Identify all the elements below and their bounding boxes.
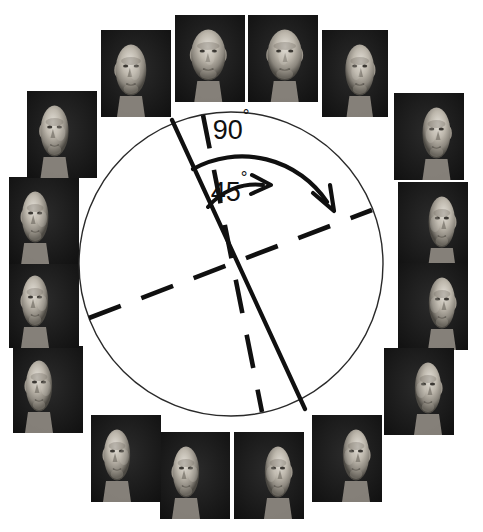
dashed-axis-45deg	[203, 115, 262, 412]
figure-root: 90° 45°	[0, 0, 483, 532]
label-45-degrees: 45°	[211, 168, 248, 208]
face-photo-10	[160, 432, 230, 519]
face-photo-03	[322, 30, 388, 117]
arc-45-degree	[208, 185, 263, 207]
label-45-degree-symbol: °	[241, 168, 248, 187]
face-photo-05	[398, 182, 468, 269]
face-photo-11	[91, 415, 161, 502]
face-photo-04	[394, 93, 464, 180]
label-90-degree-symbol: °	[243, 106, 250, 125]
face-photo-14	[9, 177, 79, 264]
dashed-axis-90deg	[89, 210, 372, 318]
arc-90-arrowhead	[313, 185, 334, 211]
arc-90-degree	[193, 156, 327, 202]
face-photo-02	[248, 15, 318, 102]
face-photo-01	[175, 15, 245, 102]
face-photo-08	[312, 415, 382, 502]
face-photo-12	[13, 346, 83, 433]
face-photo-16	[101, 30, 171, 117]
solid-axis-0deg	[172, 120, 305, 409]
label-90-degrees: 90°	[213, 106, 250, 146]
face-photo-06	[398, 263, 468, 350]
label-45-value: 45	[211, 177, 241, 207]
arc-45-arrowhead	[251, 175, 271, 194]
face-photo-09	[234, 432, 304, 519]
face-photo-15	[27, 91, 97, 178]
face-photo-07	[384, 348, 454, 435]
face-photo-13	[9, 261, 79, 348]
label-90-value: 90	[213, 115, 243, 145]
reference-circle	[79, 112, 383, 416]
